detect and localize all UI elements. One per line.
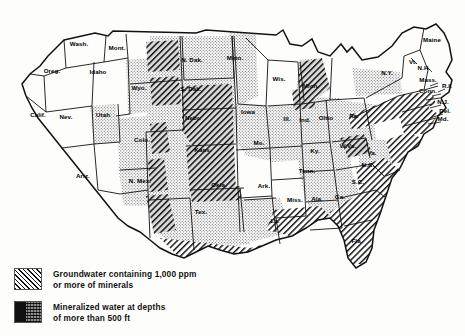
state-label-utah: Utah bbox=[96, 111, 110, 118]
state-label-nev: Nev. bbox=[59, 113, 72, 120]
state-label-pa: Pa. bbox=[349, 112, 359, 119]
state-label-ariz: Ariz. bbox=[76, 172, 90, 179]
state-label-ohio: Ohio bbox=[319, 114, 334, 121]
state-label-mont: Mont. bbox=[109, 44, 126, 51]
state-label-oreg: Oreg. bbox=[44, 67, 61, 74]
state-label-nh: N.H. bbox=[418, 64, 431, 71]
state-label-del: Del. bbox=[439, 107, 451, 114]
state-label-ind: Ind. bbox=[299, 116, 311, 123]
state-label-mo: Mo. bbox=[254, 139, 265, 146]
state-label-nj: N.J. bbox=[437, 98, 449, 105]
state-label-nebr: Nebr. bbox=[185, 114, 201, 121]
state-label-minn: Minn. bbox=[227, 54, 244, 61]
map-figure: Wash.Oreg.Calif.IdahoMont.Wyo.Nev.UtahCo… bbox=[0, 0, 465, 336]
state-label-conn: Conn. bbox=[419, 87, 437, 94]
state-label-okla: Okla. bbox=[211, 181, 227, 188]
state-label-tenn: Tenn. bbox=[299, 167, 316, 174]
state-label-mass: Mass. bbox=[419, 76, 437, 83]
state-label-fla: Fla. bbox=[351, 237, 362, 244]
state-label-ill: Ill. bbox=[283, 115, 290, 122]
state-label-colo: Colo. bbox=[134, 136, 150, 143]
state-label-ndak: N. Dak. bbox=[181, 56, 203, 63]
legend-swatch-diagonal-hatch bbox=[14, 268, 42, 290]
state-label-wash: Wash. bbox=[70, 40, 89, 47]
state-label-ga: Ga. bbox=[335, 193, 345, 200]
legend-label-mineralized: Mineralized water at depths of more than… bbox=[53, 301, 165, 323]
state-label-calif: Calif. bbox=[30, 111, 46, 118]
state-label-ky: Ky. bbox=[310, 147, 320, 154]
state-label-wva: W.Va. bbox=[340, 142, 357, 149]
legend-label-groundwater: Groundwater containing 1,000 ppm or more… bbox=[53, 268, 197, 290]
state-label-la: La. bbox=[270, 217, 279, 224]
state-label-wis: Wis. bbox=[272, 75, 285, 82]
state-label-idaho: Idaho bbox=[90, 68, 107, 75]
state-label-iowa: Iowa bbox=[241, 108, 256, 115]
state-label-maine: Maine bbox=[423, 36, 441, 43]
state-label-ala: Ala. bbox=[311, 195, 323, 202]
map-legend: Groundwater containing 1,000 ppm or more… bbox=[14, 268, 274, 334]
state-label-ny: N.Y. bbox=[381, 69, 393, 76]
state-label-sc: S.C. bbox=[352, 178, 365, 185]
state-label-wyo: Wyo. bbox=[131, 84, 146, 91]
state-label-nc: N.C. bbox=[362, 161, 375, 168]
legend-swatch-dense-block bbox=[14, 301, 42, 323]
state-label-vt: Vt. bbox=[409, 58, 417, 65]
state-label-mich: Mich. bbox=[303, 82, 319, 89]
state-label-md: Md. bbox=[438, 115, 449, 122]
state-label-va: Va. bbox=[367, 149, 376, 156]
state-label-ark: Ark. bbox=[258, 182, 271, 189]
state-label-nmex: N. Mex. bbox=[129, 177, 152, 184]
legend-item-groundwater: Groundwater containing 1,000 ppm or more… bbox=[14, 268, 274, 290]
state-label-kans: Kans. bbox=[194, 146, 212, 153]
state-label-sdak: S. Dak. bbox=[180, 85, 202, 92]
legend-item-mineralized: Mineralized water at depths of more than… bbox=[14, 301, 274, 323]
state-label-ri: R.I. bbox=[442, 82, 452, 89]
state-label-miss: Miss. bbox=[287, 196, 303, 203]
state-label-tex: Tex. bbox=[195, 208, 208, 215]
